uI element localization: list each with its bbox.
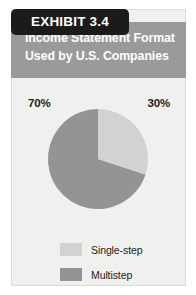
- legend-item-single-step: Single-step: [60, 241, 142, 258]
- chart-legend: Single-step Multistep: [60, 241, 142, 291]
- legend-label-single-step: Single-step: [91, 244, 142, 256]
- legend-label-multistep: Multistep: [91, 269, 132, 281]
- pie-chart: 70% 30%: [12, 78, 185, 233]
- exhibit-number-badge: EXHIBIT 3.4: [11, 9, 129, 35]
- exhibit-title: Income Statement Format Used by U.S. Com…: [25, 30, 178, 65]
- legend-swatch-single-step: [60, 243, 82, 256]
- exhibit-number-label: EXHIBIT 3.4: [11, 14, 129, 29]
- pie-label-multistep: 70%: [28, 97, 50, 109]
- exhibit-title-line-2: Used by U.S. Companies: [25, 48, 178, 66]
- exhibit-figure: Income Statement Format Used by U.S. Com…: [0, 0, 196, 295]
- legend-item-multistep: Multistep: [60, 266, 142, 283]
- pie-label-single-step: 30%: [148, 97, 170, 109]
- legend-swatch-multistep: [60, 268, 82, 281]
